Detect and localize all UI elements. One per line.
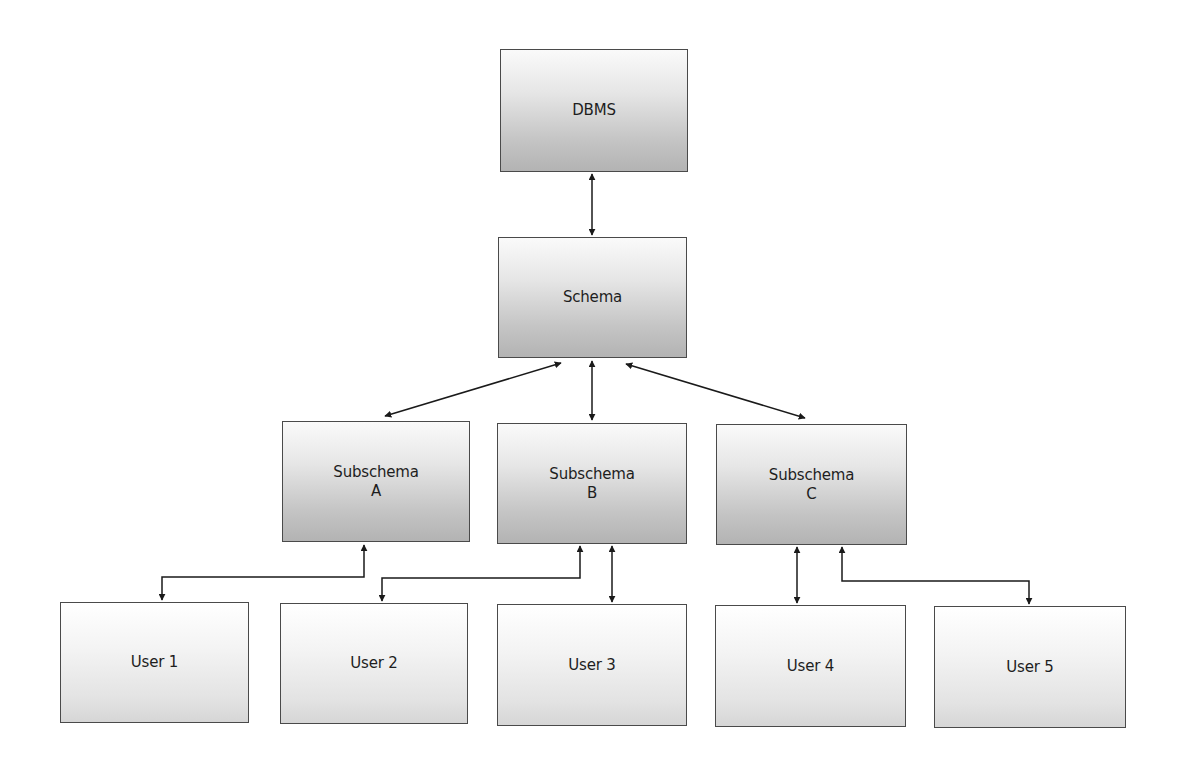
node-user-4: User 4 <box>715 605 906 727</box>
node-label: User 5 <box>1006 658 1053 677</box>
node-label: DBMS <box>572 101 616 120</box>
node-subschema-b: Subschema B <box>497 423 687 544</box>
edge-schema-subschema-a <box>385 363 561 416</box>
node-label: User 2 <box>350 654 397 673</box>
node-label-line2: C <box>806 485 816 504</box>
node-user-5: User 5 <box>934 606 1126 728</box>
node-label-line1: Subschema <box>769 466 854 485</box>
node-label-line1: Subschema <box>549 465 634 484</box>
edge-subschema-c-user5 <box>842 547 1029 604</box>
node-user-1: User 1 <box>60 602 249 723</box>
dbms-schema-diagram: DBMS Schema Subschema A Subschema B Subs… <box>0 0 1177 772</box>
node-schema: Schema <box>498 237 687 358</box>
node-user-2: User 2 <box>280 603 468 724</box>
node-label: User 4 <box>787 657 834 676</box>
node-dbms: DBMS <box>500 49 688 172</box>
node-label: User 3 <box>568 656 615 675</box>
node-label-line2: B <box>587 484 597 503</box>
node-label: User 1 <box>131 653 178 672</box>
node-label: Schema <box>563 288 622 307</box>
edge-subschema-b-user2 <box>382 546 580 601</box>
node-subschema-c: Subschema C <box>716 424 907 545</box>
node-label-line2: A <box>371 482 381 501</box>
edge-subschema-a-user1 <box>162 545 364 600</box>
edge-schema-subschema-c <box>626 364 805 418</box>
node-label-line1: Subschema <box>333 463 418 482</box>
node-subschema-a: Subschema A <box>282 421 470 542</box>
node-user-3: User 3 <box>497 604 687 726</box>
